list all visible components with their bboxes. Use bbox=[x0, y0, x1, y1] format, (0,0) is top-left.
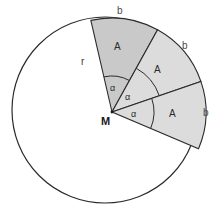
area-label-a-3: A bbox=[169, 109, 176, 119]
arc-label-b-2: b bbox=[182, 41, 188, 51]
angle-label-alpha-2: α bbox=[125, 93, 130, 102]
circle-sector-diagram bbox=[0, 0, 222, 222]
center-label-m: M bbox=[101, 116, 110, 127]
figure-canvas: b b b A A A α α α r M bbox=[0, 0, 222, 222]
center-point-marker bbox=[111, 111, 114, 114]
area-label-a-2: A bbox=[154, 65, 161, 75]
arc-label-b-3: b bbox=[203, 108, 209, 118]
area-label-a-1: A bbox=[114, 42, 121, 52]
angle-label-alpha-3: α bbox=[131, 110, 136, 119]
angle-label-alpha-1: α bbox=[110, 84, 115, 93]
radius-label-r: r bbox=[81, 57, 84, 67]
arc-label-b-1: b bbox=[117, 6, 123, 16]
